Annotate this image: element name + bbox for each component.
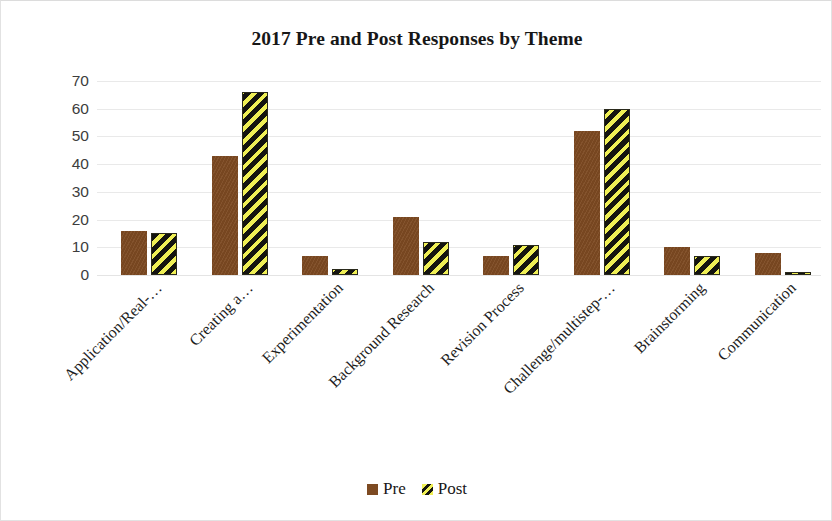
chart-legend: PrePost bbox=[1, 479, 832, 499]
bar-group bbox=[566, 81, 657, 275]
legend-item-pre[interactable]: Pre bbox=[367, 479, 406, 499]
x-axis-category-label: Creating a… bbox=[185, 279, 256, 350]
legend-label: Post bbox=[438, 479, 467, 499]
bar-post[interactable] bbox=[785, 272, 811, 275]
bar-pre[interactable] bbox=[755, 253, 781, 275]
y-axis-tick-labels: 706050403020100 bbox=[49, 81, 89, 275]
bar-pre[interactable] bbox=[302, 256, 328, 275]
legend-item-post[interactable]: Post bbox=[422, 479, 467, 499]
chart-title: 2017 Pre and Post Responses by Theme bbox=[1, 28, 832, 50]
y-axis-tick-label: 0 bbox=[80, 266, 89, 284]
gridline bbox=[97, 275, 821, 276]
y-axis-tick-label: 40 bbox=[72, 155, 89, 173]
bar-post[interactable] bbox=[151, 233, 177, 275]
bar-pre[interactable] bbox=[393, 217, 419, 275]
y-axis-tick-label: 60 bbox=[72, 100, 89, 118]
bar-group bbox=[385, 81, 476, 275]
y-axis-tick-label: 70 bbox=[72, 72, 89, 90]
bar-group bbox=[656, 81, 747, 275]
bar-pre[interactable] bbox=[664, 247, 690, 275]
y-axis-tick-label: 10 bbox=[72, 238, 89, 256]
bar-group bbox=[204, 81, 295, 275]
bar-post[interactable] bbox=[694, 256, 720, 275]
bar-group bbox=[113, 81, 204, 275]
bar-pre[interactable] bbox=[574, 131, 600, 275]
bar-group bbox=[747, 81, 832, 275]
x-axis-category-label: Experimentation bbox=[259, 279, 347, 367]
x-axis-category-label: Revision Process bbox=[437, 279, 527, 369]
bar-post[interactable] bbox=[513, 245, 539, 275]
x-axis-category-label: Application/Real-… bbox=[61, 279, 166, 384]
chart-container: 2017 Pre and Post Responses by Theme 706… bbox=[0, 0, 832, 521]
plot-area bbox=[97, 81, 821, 275]
bar-post[interactable] bbox=[332, 269, 358, 275]
legend-swatch-icon bbox=[367, 484, 378, 495]
bar-series-group bbox=[97, 81, 821, 275]
y-axis-tick-label: 20 bbox=[72, 211, 89, 229]
y-axis-tick-label: 30 bbox=[72, 183, 89, 201]
x-axis-category-label: Brainstorming bbox=[631, 279, 709, 357]
bar-pre[interactable] bbox=[121, 231, 147, 275]
x-axis-category-labels: Application/Real-…Creating a…Experimenta… bbox=[97, 279, 821, 439]
bar-post[interactable] bbox=[604, 109, 630, 275]
x-axis-category-label: Communication bbox=[714, 279, 800, 365]
bar-pre[interactable] bbox=[212, 156, 238, 275]
bar-post[interactable] bbox=[423, 242, 449, 275]
bar-pre[interactable] bbox=[483, 256, 509, 275]
bar-group bbox=[294, 81, 385, 275]
bar-group bbox=[475, 81, 566, 275]
y-axis-tick-label: 50 bbox=[72, 127, 89, 145]
legend-swatch-icon bbox=[422, 484, 433, 495]
legend-label: Pre bbox=[383, 479, 406, 499]
bar-post[interactable] bbox=[242, 92, 268, 275]
